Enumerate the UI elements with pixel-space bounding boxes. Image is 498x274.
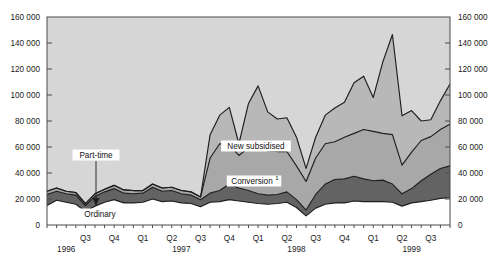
y-axis-label-left: 0 [35,221,40,230]
x-axis-quarter-label: Q3 [80,234,91,243]
y-axis-label-right: 160 000 [458,13,488,22]
y-axis-label-right: 100 000 [458,91,488,100]
y-axis-label-right: 60 000 [458,143,483,152]
x-axis-year-label: 1998 [287,245,306,254]
x-axis-quarter-label: Q1 [137,234,148,243]
x-axis-quarter-label: Q4 [109,234,120,243]
y-axis-right-labels: 020 00040 00060 00080 000100 000120 0001… [458,13,488,230]
y-axis-label-right: 0 [458,221,463,230]
x-axis-quarter-label: Q2 [281,234,292,243]
y-axis-label-right: 20 000 [458,195,483,204]
x-axis-quarter-label: Q1 [253,234,264,243]
y-axis-label-left: 160 000 [10,13,40,22]
area-chart: 020 00040 00060 00080 000100 000120 0001… [0,0,498,274]
y-axis-label-right: 40 000 [458,169,483,178]
y-axis-label-right: 80 000 [458,117,483,126]
y-axis-label-left: 40 000 [15,169,40,178]
annotation-text: New subsidised [227,142,285,151]
x-axis-quarter-label: Q4 [224,234,235,243]
x-axis-quarter-label: Q2 [397,234,408,243]
annotation-ordinary: Ordinary [79,209,121,220]
y-axis-label-left: 140 000 [10,39,40,48]
annotation-text: Part-time [79,151,113,160]
x-axis-quarter-labels: Q3Q4Q1Q2Q3Q4Q1Q2Q3Q4Q1Q2Q3 [80,234,437,243]
y-axis-label-left: 80 000 [15,117,40,126]
annotation-text: Ordinary [84,210,116,219]
annotation-conversion: Conversion1 [227,175,282,187]
x-axis-quarter-label: Q3 [310,234,321,243]
y-axis-label-left: 100 000 [10,91,40,100]
y-axis-label-left: 60 000 [15,143,40,152]
x-axis-quarter-label: Q3 [425,234,436,243]
x-axis-year-labels: 1996199719981999 [57,245,421,254]
y-axis-label-left: 120 000 [10,65,40,74]
x-axis-year-label: 1997 [172,245,191,254]
x-axis-quarter-label: Q1 [368,234,379,243]
annotation-part-time: Part-time [73,150,120,161]
annotation-text: Conversion [231,177,273,186]
y-axis-label-right: 140 000 [458,39,488,48]
y-axis-label-right: 120 000 [458,65,488,74]
y-axis-label-left: 20 000 [15,195,40,204]
x-axis-quarter-label: Q2 [166,234,177,243]
x-axis-quarter-label: Q4 [339,234,350,243]
x-axis-quarter-label: Q3 [195,234,206,243]
x-axis-year-label: 1996 [57,245,76,254]
annotation-new-subsidised: New subsidised [221,141,291,152]
x-axis-year-label: 1999 [403,245,422,254]
y-axis-left-labels: 020 00040 00060 00080 000100 000120 0001… [10,13,40,230]
chart-container: 020 00040 00060 00080 000100 000120 0001… [0,0,498,274]
